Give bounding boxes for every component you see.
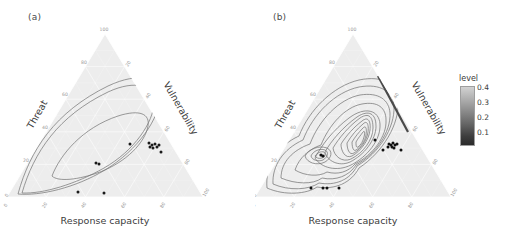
svg-text:40: 40: [290, 125, 296, 130]
svg-text:60: 60: [120, 201, 127, 209]
legend-label-1: 0.3: [477, 98, 489, 107]
svg-text:20: 20: [271, 158, 277, 163]
svg-text:80: 80: [184, 158, 191, 166]
svg-text:60: 60: [412, 125, 419, 133]
bottom-axis-title: Response capacity: [61, 215, 150, 226]
svg-text:100: 100: [450, 187, 459, 197]
svg-text:20: 20: [373, 60, 380, 68]
svg-text:60: 60: [310, 92, 316, 97]
svg-text:100: 100: [100, 27, 109, 32]
panel-a: (a): [0, 0, 256, 231]
svg-text:20: 20: [41, 201, 48, 209]
bottom-axis-title: Response capacity: [309, 215, 398, 226]
svg-text:80: 80: [81, 60, 87, 65]
bottom-axis-ticks: 0 20 40 60 80: [3, 201, 167, 209]
svg-text:100: 100: [202, 187, 211, 197]
svg-text:20: 20: [289, 201, 296, 209]
svg-text:40: 40: [80, 201, 87, 209]
svg-text:20: 20: [125, 60, 132, 68]
svg-text:80: 80: [329, 60, 335, 65]
svg-text:60: 60: [368, 201, 375, 209]
svg-text:40: 40: [328, 201, 335, 209]
svg-text:40: 40: [42, 125, 48, 130]
svg-text:60: 60: [62, 92, 68, 97]
svg-text:0: 0: [3, 203, 9, 208]
svg-text:20: 20: [23, 158, 29, 163]
svg-text:80: 80: [407, 201, 414, 209]
legend-label-3: 0.1: [477, 128, 489, 137]
legend-gradient-bar: [460, 86, 475, 146]
bottom-axis-ticks: 0 20 40 60 80: [255, 201, 414, 209]
svg-text:60: 60: [164, 125, 171, 133]
legend-title: level: [459, 74, 478, 83]
svg-text:40: 40: [393, 92, 400, 100]
legend-label-0: 0.4: [477, 83, 489, 92]
level-legend: level 0.4 0.3 0.2 0.1: [455, 74, 511, 154]
svg-text:80: 80: [432, 158, 439, 166]
panel-a-plot: 100 80 60 40 20 0 20 40 60 80 100 0 20 4…: [0, 0, 256, 231]
svg-text:80: 80: [159, 201, 166, 209]
legend-label-2: 0.2: [477, 113, 489, 122]
svg-text:0: 0: [255, 203, 257, 208]
svg-text:100: 100: [348, 27, 357, 32]
ternary-contour-figure: (a): [0, 0, 511, 231]
svg-text:40: 40: [145, 92, 152, 100]
